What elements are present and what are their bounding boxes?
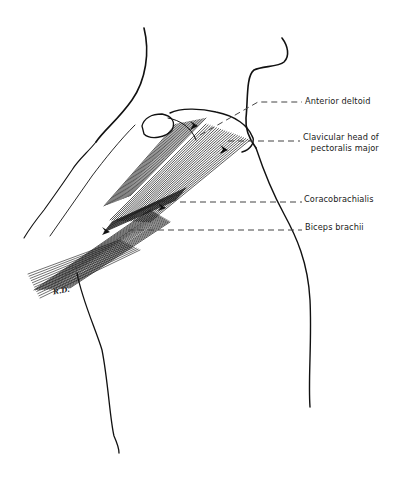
head-back-contour xyxy=(96,28,147,142)
pectoralis-fiber xyxy=(127,131,225,221)
leader-anterior-deltoid xyxy=(200,102,302,135)
torso-left-contour xyxy=(77,273,119,453)
label-clavicular-head: Clavicular head of pectoralis major xyxy=(303,132,379,154)
label-clavicular-head-line2: pectoralis major xyxy=(303,143,379,154)
illustration-drawing xyxy=(0,0,398,478)
deltoid-fiber xyxy=(106,124,178,206)
muscle-fibers xyxy=(28,118,250,298)
arm-upper-contour xyxy=(24,142,96,238)
label-clavicular-head-line1: Clavicular head of xyxy=(303,132,379,143)
label-biceps-brachii: Biceps brachii xyxy=(305,222,364,233)
biceps-fiber xyxy=(36,211,151,290)
torso-right-contour xyxy=(256,148,311,407)
face-contour xyxy=(246,38,288,148)
label-coracobrachialis: Coracobrachialis xyxy=(304,194,374,205)
anatomy-illustration: Anterior deltoid Clavicular head of pect… xyxy=(0,0,398,478)
label-anterior-deltoid: Anterior deltoid xyxy=(305,96,370,107)
